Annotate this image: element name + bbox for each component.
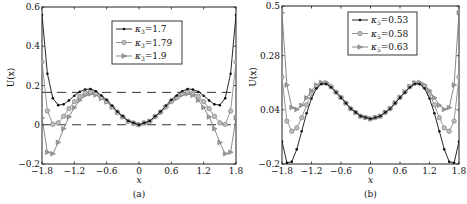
y-tick-label: 0.4 — [26, 41, 41, 51]
marker-triangle — [300, 103, 305, 108]
x-tick-label: 0.6 — [164, 166, 179, 176]
marker-circle — [72, 99, 76, 103]
marker-circle — [285, 119, 289, 123]
marker-dot — [41, 14, 44, 17]
marker-dot — [345, 102, 348, 105]
x-tick-label: −1.2 — [63, 166, 85, 176]
marker-dot — [330, 86, 333, 89]
marker-circle — [196, 94, 200, 98]
x-tick-label: −0.6 — [96, 166, 118, 176]
marker-dot — [73, 94, 76, 97]
y-tick-label: 0.5 — [266, 1, 281, 11]
marker-circle — [280, 75, 284, 79]
marker-dot — [389, 107, 392, 110]
marker-dot — [458, 140, 461, 143]
marker-circle — [358, 31, 362, 35]
y-tick-label: 0.04 — [260, 105, 280, 115]
marker-circle — [304, 103, 308, 107]
marker-triangle — [290, 105, 295, 110]
y-axis-label: U(x) — [248, 67, 258, 87]
marker-dot — [123, 28, 126, 31]
y-axis-label: U(x) — [6, 68, 16, 88]
marker-triangle — [432, 96, 437, 101]
marker-circle — [56, 121, 60, 125]
y-tick-label: 0.6 — [26, 2, 41, 12]
marker-dot — [175, 94, 178, 97]
marker-dot — [394, 102, 397, 105]
marker-dot — [404, 91, 407, 94]
marker-circle — [201, 99, 205, 103]
marker-dot — [159, 110, 162, 113]
marker-dot — [84, 88, 87, 91]
marker-dot — [51, 97, 54, 100]
marker-circle — [223, 122, 227, 126]
marker-dot — [219, 104, 222, 107]
marker-circle — [191, 91, 195, 95]
legend-entry-label: κ5=0.63 — [370, 42, 409, 53]
marker-circle — [83, 91, 87, 95]
marker-circle — [122, 40, 126, 44]
marker-circle — [299, 116, 303, 120]
marker-dot — [315, 87, 318, 90]
marker-dot — [433, 112, 436, 115]
figure: −1.8−1.2−0.600.61.21.8−0.200.20.40.6xU(x… — [0, 0, 467, 204]
marker-dot — [57, 104, 60, 107]
x-tick-label: −0.6 — [330, 166, 352, 176]
marker-dot — [448, 160, 451, 163]
marker-circle — [212, 114, 216, 118]
marker-triangle — [305, 96, 310, 101]
marker-dot — [100, 94, 103, 97]
marker-dot — [116, 110, 119, 113]
marker-circle — [457, 75, 461, 79]
legend-entry-label: κ3=1.79 — [134, 38, 173, 49]
marker-dot — [286, 162, 289, 165]
marker-dot — [320, 83, 323, 86]
marker-circle — [51, 122, 55, 126]
marker-dot — [340, 96, 343, 99]
x-axis-label: x — [368, 175, 373, 185]
marker-dot — [369, 118, 372, 121]
x-axis-label: x — [136, 175, 141, 185]
marker-dot — [325, 83, 328, 86]
marker-dot — [379, 115, 382, 118]
marker-circle — [78, 94, 82, 98]
x-tick-label: −1.2 — [301, 166, 323, 176]
marker-dot — [374, 116, 377, 119]
y-tick-label: 0.28 — [260, 51, 280, 61]
x-tick-label: 1.2 — [197, 166, 211, 176]
marker-dot — [438, 130, 441, 133]
marker-dot — [170, 99, 173, 102]
marker-circle — [290, 129, 294, 133]
marker-dot — [423, 87, 426, 90]
y-tick-label: −0.2 — [258, 159, 280, 169]
marker-circle — [67, 106, 71, 110]
marker-dot — [305, 112, 308, 115]
marker-dot — [132, 122, 135, 125]
chart-panel-b: −1.8−1.2−0.600.61.21.8−0.20.040.280.5xU(… — [248, 1, 466, 199]
legend: κ5=0.53κ5=0.58κ5=0.63 — [348, 12, 417, 55]
marker-dot — [192, 88, 195, 91]
marker-dot — [202, 94, 205, 97]
x-tick-label: 1.8 — [229, 166, 244, 176]
marker-dot — [359, 19, 362, 22]
marker-dot — [138, 123, 141, 126]
marker-dot — [148, 120, 151, 123]
legend-entry-label: κ3=1.7 — [134, 24, 167, 35]
marker-dot — [62, 103, 65, 106]
marker-dot — [46, 72, 49, 75]
marker-dot — [186, 88, 189, 91]
x-tick-label: 1.8 — [452, 166, 467, 176]
marker-dot — [122, 115, 125, 118]
marker-dot — [105, 99, 108, 102]
marker-dot — [111, 104, 114, 107]
marker-circle — [40, 60, 44, 64]
marker-circle — [61, 114, 65, 118]
marker-triangle — [202, 105, 207, 110]
marker-triangle — [72, 105, 77, 110]
y-tick-label: 0.2 — [26, 81, 40, 91]
marker-dot — [295, 148, 298, 151]
marker-dot — [443, 148, 446, 151]
marker-triangle — [67, 115, 72, 120]
x-tick-label: 1.2 — [422, 166, 436, 176]
marker-dot — [281, 140, 284, 143]
